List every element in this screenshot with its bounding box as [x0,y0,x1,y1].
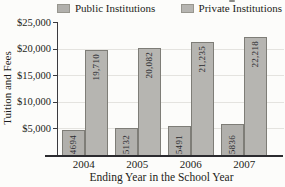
bar-private-2005: 20,082 [138,48,161,155]
bar-group-2006: 549121,235 [164,42,217,155]
legend-label-private: Private Institutions [199,2,282,14]
x-tick-label-2005: 2005 [111,158,165,170]
private-series-swatch-icon [181,4,194,13]
public-series-swatch-icon [57,4,70,13]
y-tick-label: $25,000 [0,16,51,29]
plot-area: 469419,710513220,082549121,235583622,218 [57,22,284,155]
bar-group-2007: 583622,218 [217,37,270,155]
legend-label-public: Public Institutions [75,2,155,14]
bar-public-2005: 5132 [115,128,138,155]
bar-value-label: 5132 [116,135,137,154]
tuition-fees-bar-chart: Public Institutions Private Institutions… [0,0,285,187]
bar-value-label: 5836 [222,135,243,154]
bar-group-2004: 469419,710 [58,50,111,155]
bars-container: 469419,710513220,082549121,235583622,218 [58,22,270,155]
bar-public-2004: 4694 [62,130,85,155]
x-axis-line [45,155,283,157]
chart-legend: Public Institutions Private Institutions [57,1,282,15]
bar-value-label: 5491 [169,135,190,154]
x-tick-label-2007: 2007 [218,158,272,170]
bar-value-label: 22,218 [245,41,266,68]
legend-item-public: Public Institutions [57,2,155,14]
bar-public-2006: 5491 [168,126,191,155]
bar-value-label: 21,235 [192,46,213,73]
x-axis-tick-labels: 2004200520062007 [57,158,271,170]
x-tick-label-2006: 2006 [164,158,218,170]
bar-private-2004: 19,710 [85,50,108,155]
x-tick-label-2004: 2004 [57,158,111,170]
bar-value-label: 4694 [63,135,84,154]
bar-private-2006: 21,235 [191,42,214,155]
x-axis-title: Ending Year in the School Year [40,171,283,183]
legend-item-private: Private Institutions [181,2,282,14]
bar-value-label: 20,082 [139,52,160,79]
bar-private-2007: 22,218 [244,37,267,155]
bar-value-label: 19,710 [86,54,107,81]
bar-group-2005: 513220,082 [111,48,164,155]
y-axis-title: Tuition and Fees [1,28,15,148]
bar-public-2007: 5836 [221,124,244,155]
